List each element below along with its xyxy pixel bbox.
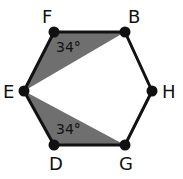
vertex-G [120, 140, 131, 151]
vertex-D [49, 140, 60, 151]
hexagon-diagram: F B H G D E 34° 34° [0, 0, 183, 179]
label-G: G [119, 153, 133, 174]
vertex-E [19, 86, 30, 97]
label-H: H [162, 81, 176, 102]
label-F: F [42, 6, 52, 27]
label-E: E [3, 81, 14, 102]
label-D: D [49, 153, 63, 174]
vertex-H [147, 86, 158, 97]
label-B: B [128, 6, 140, 27]
vertex-B [120, 27, 131, 38]
angle-label-bottom: 34° [56, 121, 81, 137]
angle-label-top: 34° [56, 39, 81, 55]
vertex-F [49, 27, 60, 38]
